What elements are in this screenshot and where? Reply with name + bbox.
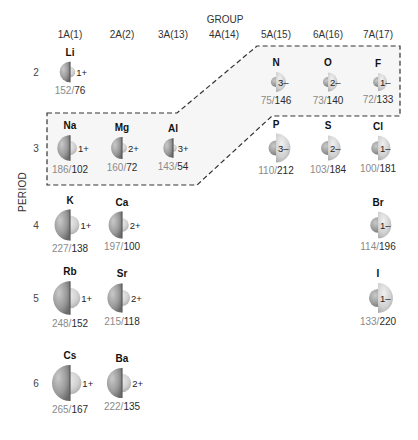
diagram-canvas xyxy=(0,0,418,440)
group-header: 1A(1) xyxy=(58,29,82,40)
element-symbol: N xyxy=(272,57,279,68)
element-sphere-k xyxy=(55,210,80,241)
element-symbol: Ca xyxy=(116,197,129,208)
ion-charge: 2– xyxy=(330,77,341,88)
ionic-radius: 72 xyxy=(126,162,137,173)
group-axis-title: GROUP xyxy=(207,14,244,25)
radius-values: 197/100 xyxy=(104,241,140,252)
ionic-radius: 184 xyxy=(329,164,346,175)
ion-charge: 1+ xyxy=(76,67,87,78)
element-symbol: Na xyxy=(64,120,77,131)
atomic-radius: 73 xyxy=(313,95,324,106)
radius-values: 160/72 xyxy=(107,162,138,173)
ion-charge: 3– xyxy=(278,77,289,88)
element-symbol: Li xyxy=(66,47,75,58)
group-header: 2A(2) xyxy=(110,29,134,40)
group-header: 4A(14) xyxy=(209,29,239,40)
element-symbol: Mg xyxy=(115,122,129,133)
period-number: 5 xyxy=(33,293,39,304)
element-symbol: O xyxy=(324,57,332,68)
element-symbol: Br xyxy=(372,197,383,208)
ion-charge: 2– xyxy=(330,143,341,154)
atomic-radius: 197 xyxy=(104,241,121,252)
ionic-radius: 133 xyxy=(377,94,394,105)
period-number: 3 xyxy=(33,143,39,154)
period-number: 4 xyxy=(33,220,39,231)
radius-values: 215/118 xyxy=(104,316,139,327)
radius-values: 110/212 xyxy=(258,165,293,176)
radius-values: 75/146 xyxy=(261,95,292,106)
ionic-radius: 140 xyxy=(327,95,344,106)
element-symbol: K xyxy=(66,195,73,206)
ion-charge: 2+ xyxy=(130,220,141,231)
element-symbol: Cs xyxy=(64,350,77,361)
element-symbol: Rb xyxy=(63,266,76,277)
element-sphere-ca xyxy=(109,212,129,239)
period-number: 2 xyxy=(33,67,39,78)
radius-values: 73/140 xyxy=(313,95,344,106)
atomic-radius: 160 xyxy=(107,162,124,173)
atomic-radius: 143 xyxy=(158,161,175,172)
group-header: 3A(13) xyxy=(158,29,188,40)
ionic-radius: 76 xyxy=(74,85,85,96)
ionic-radius: 167 xyxy=(71,404,88,415)
ion-charge: 3– xyxy=(278,143,289,154)
period-number: 6 xyxy=(33,378,39,389)
highlight-region xyxy=(47,46,400,185)
element-symbol: S xyxy=(325,120,332,131)
ion-charge: 1– xyxy=(380,220,391,231)
ionic-radius: 152 xyxy=(71,318,88,329)
ionic-radius: 118 xyxy=(124,316,140,327)
atomic-radius: 110 xyxy=(258,165,274,176)
element-symbol: Al xyxy=(168,123,178,134)
radius-values: 143/54 xyxy=(158,161,189,172)
atomic-radius: 75 xyxy=(261,95,272,106)
element-symbol: Cl xyxy=(373,121,383,132)
element-sphere-ba xyxy=(107,368,131,398)
atomic-radius: 186 xyxy=(52,164,69,175)
atomic-radius: 215 xyxy=(104,316,121,327)
ionic-radius: 54 xyxy=(177,161,188,172)
atomic-radius: 222 xyxy=(104,401,121,412)
atomic-radius: 248 xyxy=(52,318,69,329)
atomic-radius: 227 xyxy=(52,243,69,254)
ion-charge: 1+ xyxy=(82,378,93,389)
radius-values: 248/152 xyxy=(52,318,88,329)
group-header: 5A(15) xyxy=(261,29,291,40)
ionic-radius: 135 xyxy=(123,401,140,412)
radius-values: 227/138 xyxy=(52,243,88,254)
ionic-radius: 102 xyxy=(71,164,88,175)
radius-values: 152/76 xyxy=(55,85,86,96)
ionic-radius: 196 xyxy=(379,241,396,252)
ion-charge: 1+ xyxy=(81,293,92,304)
ion-charge: 1– xyxy=(380,293,391,304)
element-sphere-cs xyxy=(52,365,81,401)
ion-charge: 1– xyxy=(380,77,391,88)
ionic-radius: 100 xyxy=(123,241,140,252)
radius-values: 265/167 xyxy=(52,404,88,415)
radius-values: 100/181 xyxy=(360,163,396,174)
ion-charge: 1+ xyxy=(78,143,89,154)
atomic-radius: 133 xyxy=(360,316,377,327)
element-symbol: Ba xyxy=(116,353,129,364)
ion-charge: 2+ xyxy=(131,293,142,304)
element-symbol: Sr xyxy=(117,268,128,279)
atomic-radius: 72 xyxy=(363,94,374,105)
radius-values: 103/184 xyxy=(310,164,346,175)
element-symbol: P xyxy=(273,119,280,130)
group-header: 6A(16) xyxy=(313,29,343,40)
group-header: 7A(17) xyxy=(363,29,393,40)
radius-values: 72/133 xyxy=(363,94,394,105)
element-sphere-rb xyxy=(53,281,80,315)
radius-values: 114/196 xyxy=(360,241,395,252)
ion-charge: 2+ xyxy=(132,378,143,389)
radius-values: 186/102 xyxy=(52,164,88,175)
ionic-radius: 212 xyxy=(277,165,294,176)
element-sphere-li xyxy=(60,62,75,83)
period-axis-title: PERIOD xyxy=(17,172,28,212)
radius-values: 133/220 xyxy=(360,316,396,327)
ion-charge: 2+ xyxy=(128,143,139,154)
ion-charge: 1+ xyxy=(80,220,91,231)
element-symbol: F xyxy=(375,58,381,69)
element-symbol: I xyxy=(377,268,380,279)
